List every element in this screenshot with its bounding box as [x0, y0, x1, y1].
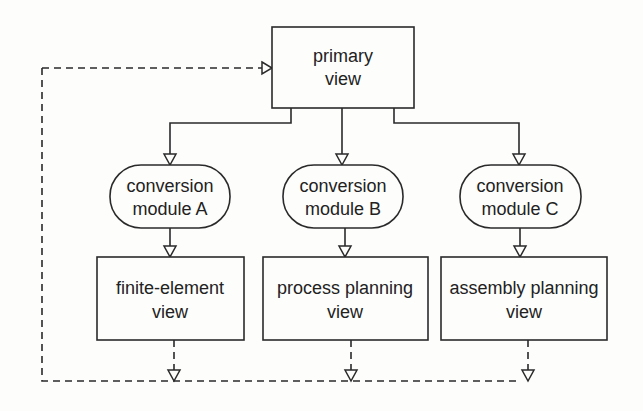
- module-to-view-connectors: [164, 228, 526, 257]
- feedback-arrowhead-icon: [262, 62, 272, 74]
- conversion-module-b-node[interactable]: conversion module B: [283, 165, 403, 228]
- arrowhead-fe-view-icon: [164, 246, 176, 257]
- primary-view-label-line1: primary: [313, 46, 373, 66]
- pp-view-label-line2: view: [327, 302, 364, 322]
- ap-view-label-line1: assembly planning: [449, 278, 598, 298]
- fe-feedback-arrowhead-icon: [168, 370, 180, 381]
- module-c-label-line1: conversion: [476, 176, 563, 196]
- arrowhead-ap-view-icon: [514, 246, 526, 257]
- ap-view-label-line2: view: [506, 302, 543, 322]
- primary-to-modules-connectors: [164, 108, 525, 165]
- ap-feedback-arrowhead-icon: [522, 370, 534, 381]
- module-c-label-line2: module C: [481, 199, 558, 219]
- module-a-label-line2: module A: [132, 199, 207, 219]
- arrowhead-module-a-icon: [164, 154, 176, 165]
- module-b-label-line1: conversion: [299, 176, 386, 196]
- pp-view-label-line1: process planning: [277, 278, 413, 298]
- connector-to-module-a: [170, 108, 291, 154]
- pp-feedback-arrowhead-icon: [345, 370, 357, 381]
- assembly-planning-view-box[interactable]: [441, 257, 607, 340]
- primary-view-label-line2: view: [325, 69, 362, 89]
- conversion-module-a-node[interactable]: conversion module A: [110, 165, 230, 228]
- connector-to-module-c: [394, 108, 519, 154]
- conversion-module-c-node[interactable]: conversion module C: [460, 165, 581, 228]
- view-feedback-stubs: [168, 340, 534, 381]
- process-planning-view-node[interactable]: process planning view: [263, 257, 428, 340]
- assembly-planning-view-node[interactable]: assembly planning view: [441, 257, 607, 340]
- flowchart-diagram: primary view conversion module A convers…: [0, 0, 643, 411]
- finite-element-view-box[interactable]: [97, 257, 244, 340]
- fe-view-label-line1: finite-element: [116, 278, 224, 298]
- finite-element-view-node[interactable]: finite-element view: [97, 257, 244, 340]
- process-planning-view-box[interactable]: [263, 257, 428, 340]
- primary-view-box[interactable]: [272, 27, 414, 108]
- fe-view-label-line2: view: [152, 302, 189, 322]
- primary-view-node[interactable]: primary view: [272, 27, 414, 108]
- arrowhead-module-b-icon: [336, 154, 348, 165]
- module-a-label-line1: conversion: [126, 176, 213, 196]
- arrowhead-module-c-icon: [513, 154, 525, 165]
- arrowhead-pp-view-icon: [339, 246, 351, 257]
- module-b-label-line2: module B: [305, 199, 381, 219]
